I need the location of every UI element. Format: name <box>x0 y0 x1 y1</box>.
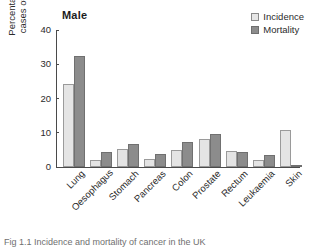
bar-incidence[interactable] <box>253 160 264 167</box>
bar-group <box>280 30 302 167</box>
bar-series-container <box>57 30 300 167</box>
bar-mortality[interactable] <box>182 142 193 167</box>
plot-area: 010203040 <box>56 30 300 168</box>
bar-mortality[interactable] <box>128 144 139 167</box>
bar-mortality[interactable] <box>101 152 112 167</box>
y-axis-tick-label: 0 <box>46 161 51 172</box>
bar-group <box>253 30 275 167</box>
y-axis-tick-label: 20 <box>40 93 51 104</box>
bar-incidence[interactable] <box>226 151 237 167</box>
bar-incidence[interactable] <box>117 149 128 167</box>
legend-swatch-incidence-icon <box>251 13 259 21</box>
bar-incidence[interactable] <box>280 130 291 167</box>
bar-mortality[interactable] <box>264 155 275 167</box>
bar-incidence[interactable] <box>63 84 74 167</box>
bar-incidence[interactable] <box>199 139 210 167</box>
bar-group <box>144 30 166 167</box>
y-axis-label-line-1: Percentage of all <box>6 0 17 60</box>
legend-label-incidence: Incidence <box>263 11 304 22</box>
bar-group <box>117 30 139 167</box>
bar-mortality[interactable] <box>155 154 166 167</box>
y-axis-tick-label: 30 <box>40 58 51 69</box>
legend-item-incidence: Incidence <box>251 11 304 22</box>
x-axis-tick-labels: LungOesophagusStomachPancreasColonProsta… <box>56 168 306 220</box>
bar-group <box>226 30 248 167</box>
bar-incidence[interactable] <box>90 160 101 167</box>
figure-caption: Fig 1.1 Incidence and mortality of cance… <box>4 237 304 249</box>
bar-mortality[interactable] <box>74 56 85 167</box>
y-axis-tick-label: 10 <box>40 127 51 138</box>
y-axis-tick-label: 40 <box>40 24 51 35</box>
bar-group <box>90 30 112 167</box>
bar-mortality[interactable] <box>237 152 248 167</box>
bar-group <box>199 30 221 167</box>
bar-mortality[interactable] <box>210 134 221 167</box>
y-axis-label-line-2: cases of cancer <box>17 0 28 60</box>
bar-incidence[interactable] <box>171 150 182 167</box>
chart-title: Male <box>62 9 87 21</box>
bar-group <box>63 30 85 167</box>
bar-incidence[interactable] <box>144 159 155 167</box>
bar-mortality[interactable] <box>291 165 302 167</box>
bar-group <box>171 30 193 167</box>
y-axis-label: Percentage of all cases of cancer <box>6 0 28 60</box>
